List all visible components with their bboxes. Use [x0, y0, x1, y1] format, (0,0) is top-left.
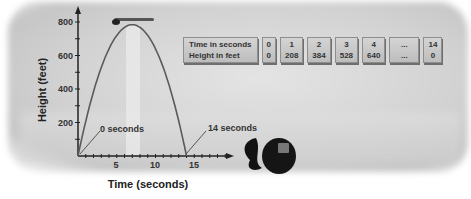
figure: 5 10 15 200 400 600 800 0 seconds 14 sec… [0, 0, 471, 199]
table-column: 1208 [280, 37, 303, 63]
y-tick-800: 800 [58, 17, 73, 27]
chart: 5 10 15 200 400 600 800 0 seconds 14 sec… [0, 0, 471, 199]
x-tick-5: 5 [113, 160, 118, 170]
y-tick-400: 400 [58, 84, 73, 94]
x-tick-15: 15 [189, 160, 199, 170]
table-column: 4640 [362, 37, 385, 63]
table-header-cell: Time in seconds Height in feet [183, 37, 258, 63]
row-label-height: Height in feet [189, 50, 252, 61]
x-axis-arrow-icon [226, 153, 234, 159]
annotation-14-seconds: 14 seconds [208, 123, 257, 133]
table-column: 3528 [335, 37, 358, 63]
y-tick-200: 200 [58, 118, 73, 128]
table-column: ...... [389, 37, 419, 63]
data-table: Time in seconds Height in feet 00 1208 2… [183, 37, 442, 63]
table-column: 2384 [307, 37, 330, 63]
y-tick-600: 600 [58, 51, 73, 61]
y-axis-arrow-icon [75, 6, 81, 14]
annotation-0-seconds: 0 seconds [100, 124, 144, 134]
table-column: 00 [262, 37, 276, 63]
y-axis-label: Height (feet) [36, 58, 48, 123]
x-tick-10: 10 [150, 160, 160, 170]
table-column: 140 [423, 37, 442, 63]
x-axis-label: Time (seconds) [108, 178, 189, 190]
row-label-time: Time in seconds [189, 39, 252, 50]
stopwatch-icon [245, 138, 296, 174]
